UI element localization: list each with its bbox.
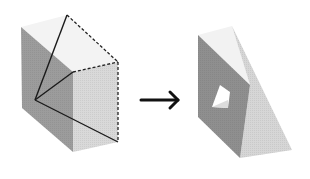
cube-figure <box>21 15 118 152</box>
diagram-svg <box>0 0 310 179</box>
wedge-figure <box>198 26 292 158</box>
arrow-icon <box>141 92 178 108</box>
diagram-canvas: A cube is sliced by a plane through thre… <box>0 0 310 179</box>
